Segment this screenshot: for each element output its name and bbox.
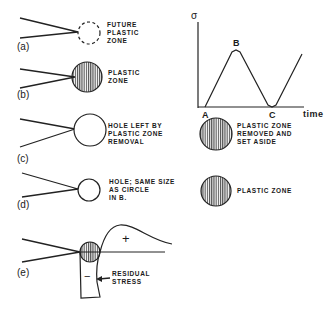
graph-point-c: C [269, 110, 276, 120]
diagram-canvas [0, 0, 334, 310]
crack-b [20, 69, 75, 88]
caption-a: FUTURE PLASTIC ZONE [107, 21, 139, 45]
panel-label-e: (e) [17, 267, 29, 278]
graph-point-a: A [202, 110, 209, 120]
crack-a [20, 18, 78, 38]
future-plastic-zone-circle [78, 22, 100, 44]
graph-xlabel: time [303, 109, 324, 119]
graph-ylabel: σ [191, 10, 197, 21]
plastic-zone-circle-d [201, 176, 231, 206]
graph-point-b: B [233, 38, 240, 48]
plastic-zone-circle-e [80, 242, 100, 262]
removed-plastic-zone-circle [200, 118, 232, 150]
caption-d: HOLE; SAME SIZE AS CIRCLE IN B. [109, 178, 175, 202]
panel-label-c: (c) [17, 153, 29, 164]
caption-b: PLASTIC ZONE [108, 69, 140, 85]
stress-time-graph [198, 22, 304, 108]
caption-c: HOLE LEFT BY PLASTIC ZONE REMOVAL [108, 122, 163, 146]
side-caption-d: PLASTIC ZONE [237, 187, 292, 195]
panel-label-b: (b) [17, 89, 29, 100]
negative-sign: − [84, 270, 90, 282]
side-caption-c: PLASTIC ZONE REMOVED AND SET ASIDE [237, 122, 292, 146]
crack-e [22, 239, 80, 262]
panel-label-a: (a) [17, 41, 29, 52]
plastic-zone-circle-b [72, 62, 102, 92]
panel-label-d: (d) [17, 199, 29, 210]
positive-stress-curve [100, 225, 172, 252]
caption-e: RESIDUAL STRESS [112, 270, 150, 286]
hole-circle-c [74, 114, 106, 146]
hole-circle-d [78, 179, 100, 201]
crack-c [20, 119, 75, 147]
crack-d [22, 173, 78, 197]
positive-sign: + [122, 231, 130, 246]
